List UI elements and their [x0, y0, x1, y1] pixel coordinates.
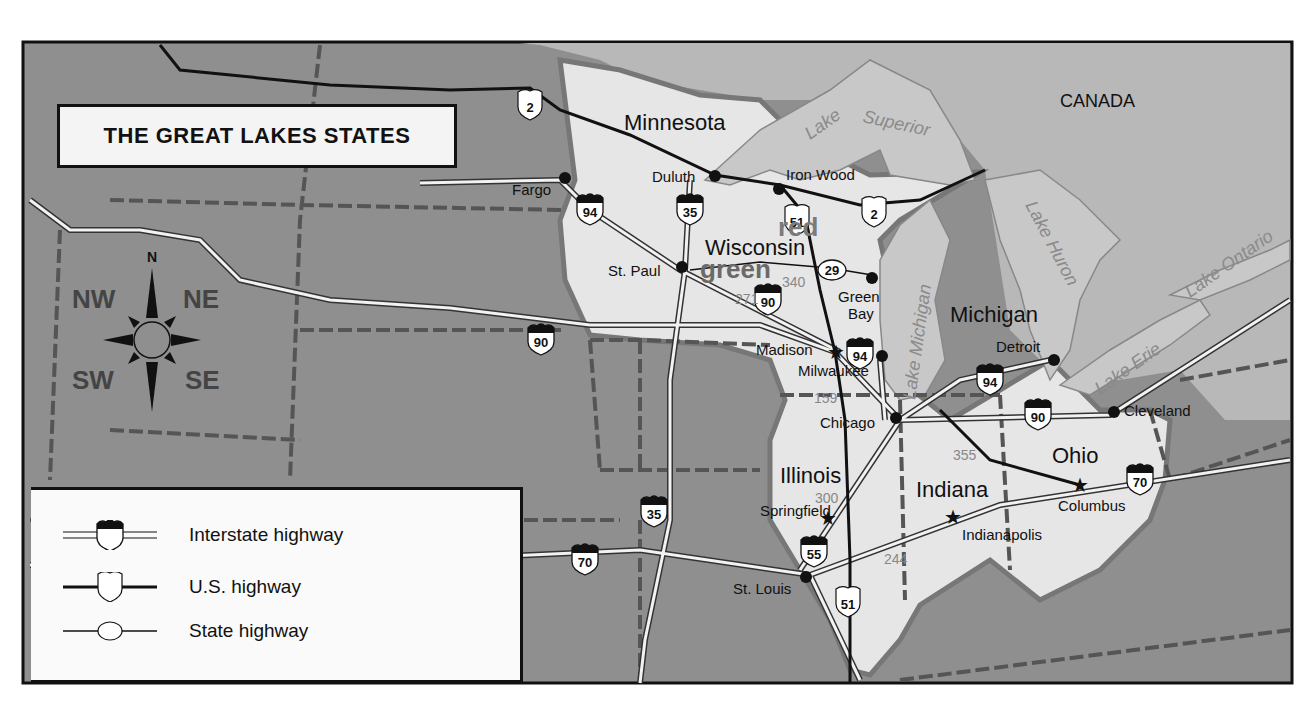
svg-text:35: 35	[683, 205, 697, 220]
svg-text:2: 2	[526, 100, 533, 115]
svg-text:70: 70	[1133, 475, 1147, 490]
map-legend: Interstate highway U.S. highway State hi…	[31, 487, 523, 683]
state-label-minnesota: Minnesota	[624, 110, 726, 135]
city-label-indianapolis: Indianapolis	[962, 526, 1042, 543]
city-label-st-paul: St. Paul	[608, 262, 661, 279]
legend-item-interstate: Interstate highway	[63, 520, 343, 550]
legend-item-us: U.S. highway	[63, 572, 301, 602]
distance-271: 271	[735, 291, 759, 307]
overlay-word-green: green	[700, 254, 771, 284]
state-shields: 29	[818, 260, 846, 280]
city-label-st-louis: St. Louis	[733, 580, 791, 597]
city-label-duluth: Duluth	[652, 168, 695, 185]
compass-ne-label: NE	[183, 284, 219, 314]
state-label-michigan: Michigan	[950, 302, 1038, 327]
svg-text:★: ★	[827, 341, 845, 363]
compass-se-label: SE	[185, 365, 220, 395]
city-label-chicago: Chicago	[820, 414, 875, 431]
compass-north-label: N	[147, 249, 157, 265]
compass-nw-label: NW	[72, 284, 116, 314]
overlay-word-red: red	[778, 212, 818, 242]
legend-item-state: State highway	[63, 616, 308, 646]
city-label-fargo: Fargo	[512, 181, 551, 198]
city-label-cleveland: Cleveland	[1124, 402, 1191, 419]
svg-text:94: 94	[583, 205, 598, 220]
svg-text:90: 90	[1031, 410, 1045, 425]
distance-244: 244	[884, 551, 908, 567]
country-label: CANADA	[1060, 91, 1135, 111]
svg-text:90: 90	[761, 295, 775, 310]
city-label-iron-wood: Iron Wood	[786, 166, 855, 183]
compass-sw-label: SW	[72, 365, 114, 395]
svg-text:2: 2	[870, 207, 877, 222]
distance-300: 300	[815, 490, 839, 506]
distance-355: 355	[953, 447, 977, 463]
svg-text:55: 55	[807, 547, 821, 562]
state-oval-icon	[63, 616, 157, 646]
svg-text:70: 70	[578, 555, 592, 570]
svg-text:94: 94	[983, 375, 998, 390]
us-shield-icon	[63, 572, 157, 602]
svg-text:29: 29	[825, 263, 839, 278]
svg-text:51: 51	[841, 597, 855, 612]
svg-text:★: ★	[1071, 474, 1089, 496]
city-label-madison: Madison	[756, 341, 813, 358]
map-title: THE GREAT LAKES STATES	[104, 123, 411, 149]
svg-text:90: 90	[534, 335, 548, 350]
svg-text:★: ★	[944, 506, 962, 528]
distance-340: 340	[782, 274, 806, 290]
map-title-box: THE GREAT LAKES STATES	[57, 104, 457, 168]
state-label-illinois: Illinois	[780, 463, 841, 488]
state-label-indiana: Indiana	[916, 477, 989, 502]
state-label-ohio: Ohio	[1052, 443, 1098, 468]
city-label-milwaukee: Milwaukee	[798, 362, 869, 379]
city-label-columbus: Columbus	[1058, 497, 1126, 514]
distance-159: 159	[814, 390, 838, 406]
city-label-detroit: Detroit	[996, 338, 1041, 355]
svg-text:35: 35	[647, 507, 661, 522]
interstate-shield-icon	[63, 520, 157, 550]
